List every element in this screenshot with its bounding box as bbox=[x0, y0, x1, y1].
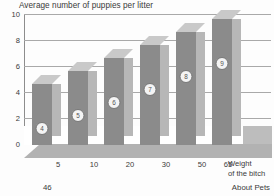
floor-top-plane bbox=[24, 144, 272, 158]
bar-value-badge-65: 9 bbox=[216, 57, 229, 70]
y-tick-label-10: 10 bbox=[12, 10, 20, 19]
bar-front-face-65 bbox=[212, 19, 232, 145]
bar-side-face-10 bbox=[88, 71, 97, 136]
x-axis-title-line1: Weight bbox=[228, 159, 265, 169]
bar-side-face-5 bbox=[52, 84, 61, 136]
bar-front-face-5 bbox=[32, 84, 52, 145]
bar-value-badge-10: 5 bbox=[72, 109, 85, 122]
bar-20[interactable]: 6 bbox=[104, 58, 124, 145]
x-tick-label-5: 5 bbox=[56, 160, 60, 169]
y-tick-label-2: 2 bbox=[16, 114, 20, 123]
x-axis-title: Weight of the bitch bbox=[228, 159, 265, 178]
footer-page-number: 46 bbox=[43, 183, 52, 192]
bar-value-badge-50: 8 bbox=[180, 70, 193, 83]
bar-value-badge-5: 4 bbox=[36, 122, 49, 135]
chart-page: Average number of puppies per litter 10 … bbox=[0, 0, 274, 196]
x-tick-label-10: 10 bbox=[90, 160, 98, 169]
x-tick-label-30: 30 bbox=[162, 160, 170, 169]
bar-5[interactable]: 4 bbox=[32, 84, 52, 145]
bar-value-badge-30: 7 bbox=[144, 83, 157, 96]
bar-65[interactable]: 9 bbox=[212, 19, 232, 145]
x-tick-label-50: 50 bbox=[198, 160, 206, 169]
plot-area: 10 8 6 4 2 0 4 bbox=[0, 14, 274, 159]
y-tick-label-0: 0 bbox=[16, 140, 20, 149]
y-tick-label-6: 6 bbox=[16, 62, 20, 71]
bar-10[interactable]: 5 bbox=[68, 71, 88, 145]
footer-book-title: About Pets bbox=[232, 183, 270, 192]
bar-side-face-30 bbox=[160, 45, 169, 136]
bar-top-face-10 bbox=[68, 62, 97, 71]
bar-series: 4 5 6 7 bbox=[24, 14, 272, 145]
bar-front-face-50 bbox=[176, 32, 196, 145]
chart-title: Average number of puppies per litter bbox=[19, 1, 153, 10]
y-tick-label-4: 4 bbox=[16, 88, 20, 97]
bar-side-face-65 bbox=[232, 19, 241, 136]
bar-30[interactable]: 7 bbox=[140, 45, 160, 145]
bar-top-face-30 bbox=[140, 36, 169, 45]
bar-value-badge-20: 6 bbox=[108, 96, 121, 109]
bar-side-face-20 bbox=[124, 58, 133, 136]
bar-50[interactable]: 8 bbox=[176, 32, 196, 145]
y-axis-tick-labels: 10 8 6 4 2 0 bbox=[0, 14, 22, 145]
x-axis-title-line2: of the bitch bbox=[228, 169, 265, 179]
bar-front-face-10 bbox=[68, 71, 88, 145]
bar-top-face-65 bbox=[212, 10, 241, 19]
y-tick-label-8: 8 bbox=[16, 36, 20, 45]
bar-top-face-5 bbox=[32, 75, 61, 84]
bar-top-face-20 bbox=[104, 49, 133, 58]
x-tick-label-20: 20 bbox=[126, 160, 134, 169]
bar-top-face-50 bbox=[176, 23, 205, 32]
bar-side-face-50 bbox=[196, 32, 205, 136]
